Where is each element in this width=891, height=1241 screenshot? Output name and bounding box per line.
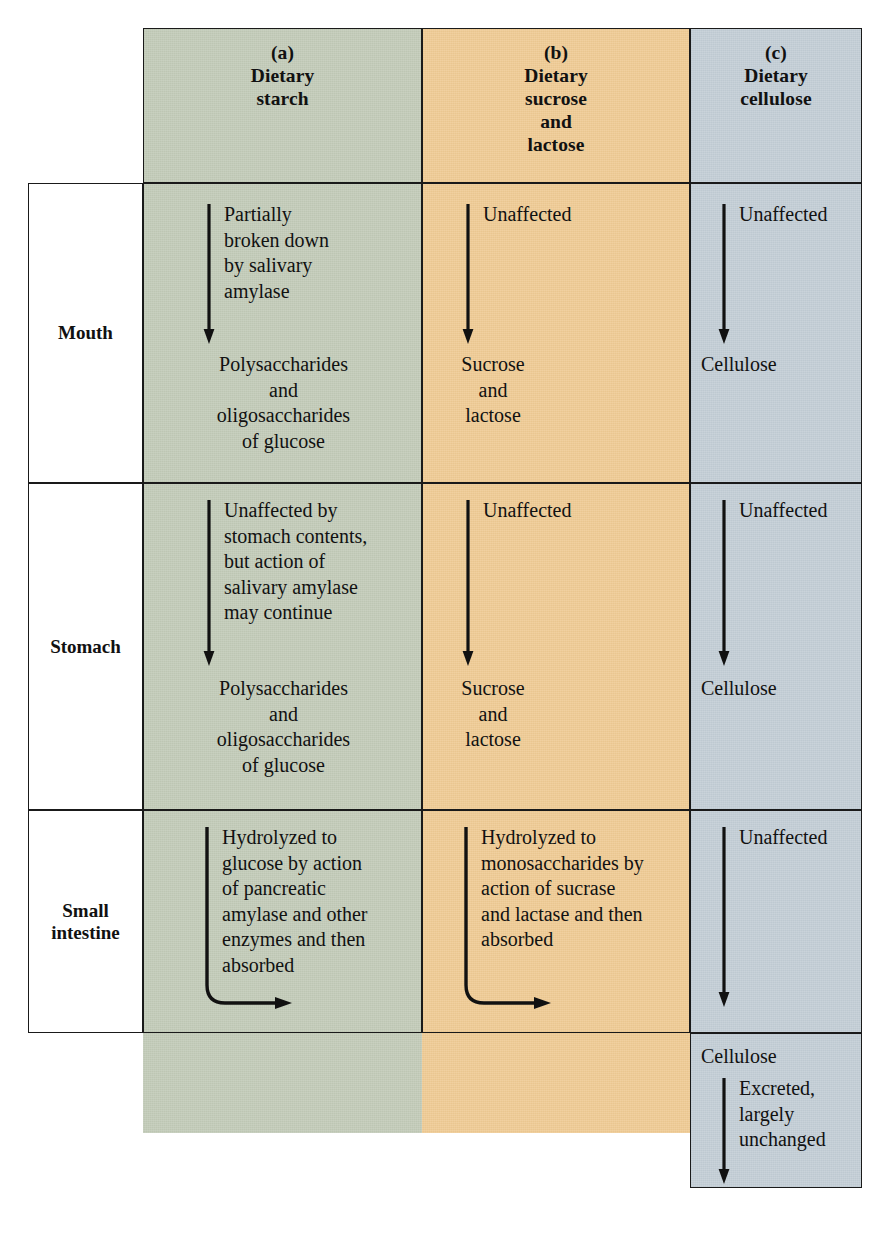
process-text-small-intestine-cellulose: Unaffected xyxy=(739,825,889,851)
cell-mouth-dietary-starch: Partially broken down by salivary amylas… xyxy=(143,183,422,483)
process-text-stomach-starch: Unaffected by stomach contents, but acti… xyxy=(224,498,429,626)
process-text-stomach-cellulose: Unaffected xyxy=(739,498,889,524)
row-label-small-intestine: Small intestine xyxy=(28,810,143,1033)
process-text-small-intestine-sucrose: Hydrolyzed to monosaccharides by action … xyxy=(481,825,696,953)
product-text-stomach-sucrose: Sucrose and lactose xyxy=(433,676,553,753)
process-text-excretion-cellulose: Excreted, largely unchanged xyxy=(739,1076,889,1153)
header-title-c: Dietary cellulose xyxy=(691,64,861,110)
cell-small-intestine-dietary-cellulose: Unaffected xyxy=(690,810,862,1033)
cell-stomach-dietary-sucrose-lactose: Unaffected Sucrose and lactose xyxy=(422,483,690,810)
down-arrow-icon xyxy=(717,500,731,666)
header-cell-dietary-sucrose-lactose: (b) Dietary sucrose and lactose xyxy=(422,28,690,183)
row-label-mouth: Mouth xyxy=(28,183,143,483)
header-title-a: Dietary starch xyxy=(144,64,421,110)
cell-stomach-dietary-starch: Unaffected by stomach contents, but acti… xyxy=(143,483,422,810)
product-text-mouth-cellulose: Cellulose xyxy=(701,352,861,378)
down-arrow-icon xyxy=(202,500,216,666)
down-arrow-icon xyxy=(461,500,475,666)
down-arrow-icon xyxy=(717,1078,731,1184)
header-cell-dietary-cellulose: (c) Dietary cellulose xyxy=(690,28,862,183)
cell-mouth-dietary-cellulose: Unaffected Cellulose xyxy=(690,183,862,483)
product-text-excretion-cellulose: Cellulose xyxy=(701,1044,861,1070)
process-text-stomach-sucrose: Unaffected xyxy=(483,498,683,524)
process-text-mouth-cellulose: Unaffected xyxy=(739,202,889,228)
process-table: (a) Dietary starch (b) Dietary sucrose a… xyxy=(28,28,862,1188)
cell-small-intestine-dietary-starch: Hydrolyzed to glucose by action of pancr… xyxy=(143,810,422,1033)
process-text-mouth-starch: Partially broken down by salivary amylas… xyxy=(224,202,419,304)
product-text-mouth-sucrose: Sucrose and lactose xyxy=(433,352,553,429)
process-text-mouth-sucrose: Unaffected xyxy=(483,202,683,228)
down-arrow-icon xyxy=(717,827,731,1007)
cell-mouth-dietary-sucrose-lactose: Unaffected Sucrose and lactose xyxy=(422,183,690,483)
cell-small-intestine-dietary-sucrose-lactose: Hydrolyzed to monosaccharides by action … xyxy=(422,810,690,1033)
header-tag-c: (c) xyxy=(691,41,861,64)
row-label-stomach: Stomach xyxy=(28,483,143,810)
figure-root: (a) Dietary starch (b) Dietary sucrose a… xyxy=(0,0,891,1241)
header-tag-a: (a) xyxy=(144,41,421,64)
header-tag-b: (b) xyxy=(423,41,689,64)
cell-stomach-dietary-cellulose: Unaffected Cellulose xyxy=(690,483,862,810)
down-arrow-icon xyxy=(461,204,475,344)
down-arrow-icon xyxy=(717,204,731,344)
header-title-b: Dietary sucrose and lactose xyxy=(423,64,689,156)
product-text-mouth-starch: Polysaccharides and oligosaccharides of … xyxy=(152,352,415,454)
cell-excretion-dietary-cellulose: Cellulose Excreted, largely unchanged xyxy=(690,1033,862,1188)
header-cell-dietary-starch: (a) Dietary starch xyxy=(143,28,422,183)
product-text-stomach-cellulose: Cellulose xyxy=(701,676,861,702)
down-arrow-icon xyxy=(202,204,216,344)
process-text-small-intestine-starch: Hydrolyzed to glucose by action of pancr… xyxy=(222,825,432,978)
product-text-stomach-starch: Polysaccharides and oligosaccharides of … xyxy=(152,676,415,778)
